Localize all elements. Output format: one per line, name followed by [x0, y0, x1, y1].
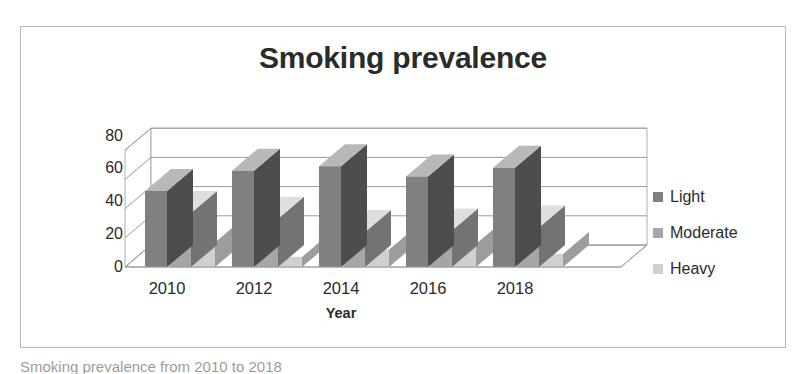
bar-light-2012: [232, 149, 280, 267]
x-tick-label-2016: 2016: [393, 279, 463, 297]
bar-light-2018: [493, 146, 541, 267]
legend-label-heavy: Heavy: [670, 260, 715, 278]
legend-swatch-icon-light: [653, 192, 663, 202]
chart-legend: Light Moderate Heavy: [653, 179, 781, 287]
x-tick-label-2012: 2012: [219, 279, 289, 297]
legend-label-light: Light: [670, 188, 705, 206]
legend-item-moderate: Moderate: [653, 215, 781, 251]
legend-item-heavy: Heavy: [653, 251, 781, 287]
screenshot-root: Smoking prevalence Smoking percentage 80…: [0, 0, 806, 374]
chart-frame: Smoking prevalence Smoking percentage 80…: [20, 26, 786, 348]
legend-swatch-icon-moderate: [653, 228, 663, 238]
legend-swatch-icon-heavy: [653, 264, 663, 274]
bar-light-2016: [406, 154, 454, 267]
legend-item-light: Light: [653, 179, 781, 215]
x-tick-label-2018: 2018: [480, 279, 550, 297]
legend-label-moderate: Moderate: [670, 224, 738, 242]
figure-caption: Smoking prevalence from 2010 to 2018: [20, 358, 780, 374]
bar-light-2014: [319, 144, 367, 267]
x-tick-label-2014: 2014: [306, 279, 376, 297]
x-tick-label-2010: 2010: [132, 279, 202, 297]
x-axis-title: Year: [171, 305, 511, 321]
